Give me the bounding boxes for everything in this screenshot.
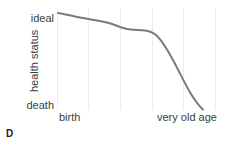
- panel-letter: D: [6, 128, 13, 139]
- x-axis-tick-very-old-age: very old age: [157, 111, 217, 123]
- chart-svg: [57, 8, 217, 110]
- x-axis-tick-birth: birth: [59, 111, 80, 123]
- health-status-curve: [58, 13, 203, 110]
- y-axis-title: health status: [27, 22, 41, 100]
- figure-panel: ideal death health status birth very old…: [0, 0, 242, 146]
- y-axis-tick-death: death: [26, 100, 54, 111]
- plot-area: [57, 8, 217, 110]
